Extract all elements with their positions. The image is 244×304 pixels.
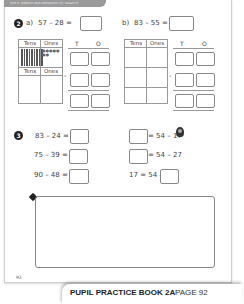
q2a-o-row1[interactable] bbox=[91, 52, 110, 66]
q2a-place-value-chart: Tens Ones Tens Ones ●●●●●●● bbox=[18, 39, 63, 104]
q2b-t-row2[interactable] bbox=[175, 73, 194, 87]
page-number: 92 bbox=[16, 275, 22, 280]
q3-left-1-answer[interactable] bbox=[70, 129, 89, 144]
ones-dots: ●●●●●●● bbox=[42, 49, 59, 57]
book-title: PUPIL PRACTICE BOOK 2A bbox=[70, 288, 175, 297]
header-strip: Unit 4: Addition and subtraction (2), Le… bbox=[4, 0, 106, 7]
working-area[interactable] bbox=[35, 196, 215, 268]
q2b-o-row2[interactable] bbox=[196, 73, 215, 87]
q3-right-3: 17 = 54 – bbox=[129, 171, 163, 179]
o-column-header: O bbox=[96, 40, 101, 47]
tens-header: Tens bbox=[126, 40, 146, 46]
q3-left-1: 83 – 24 = bbox=[35, 132, 69, 140]
q3-right-2-answer[interactable] bbox=[129, 149, 148, 164]
q3-left-3: 90 – 48 = bbox=[34, 171, 68, 179]
tens-header-2: Tens bbox=[20, 68, 40, 74]
q2a-t-row2[interactable] bbox=[70, 73, 89, 87]
ones-header-2: Ones bbox=[41, 68, 61, 74]
q2a-label: a) bbox=[26, 19, 33, 27]
q2b-label: b) bbox=[122, 19, 129, 27]
q3-left-2-answer[interactable] bbox=[69, 149, 88, 164]
q2a-t-answer[interactable] bbox=[70, 94, 89, 108]
ones-header: Ones bbox=[41, 40, 61, 46]
q2a-o-answer[interactable] bbox=[91, 94, 110, 108]
footer-tab: PUPIL PRACTICE BOOK 2A PAGE 92 bbox=[62, 284, 242, 304]
ones-header: Ones bbox=[147, 40, 167, 46]
minus-sign: - bbox=[64, 72, 67, 80]
q2a-o-row2[interactable] bbox=[91, 73, 110, 87]
lightbulb-hint-icon bbox=[176, 127, 184, 137]
q2b-place-value-chart: Tens Ones bbox=[124, 39, 168, 104]
t-column-header: T bbox=[75, 40, 79, 47]
book-page: PAGE 92 bbox=[175, 288, 208, 297]
header-text: Unit 4: Addition and subtraction (2), Le… bbox=[10, 1, 78, 5]
question-3-number: 3 bbox=[14, 131, 23, 140]
q3-right-2: = 54 – 27 bbox=[148, 151, 182, 159]
q2b-o-row1[interactable] bbox=[196, 52, 215, 66]
t-column-header: T bbox=[180, 40, 184, 47]
q3-right-3-answer[interactable] bbox=[160, 169, 179, 184]
tens-rods bbox=[21, 49, 43, 66]
q2b-answer-box[interactable] bbox=[169, 16, 194, 31]
q2b-o-answer[interactable] bbox=[196, 94, 215, 108]
q2a-expression: 57 – 28 = bbox=[38, 19, 72, 27]
q3-left-3-answer[interactable] bbox=[69, 169, 89, 184]
q2a-answer-box[interactable] bbox=[80, 16, 102, 31]
minus-sign: - bbox=[169, 72, 172, 80]
q3-right-1-answer[interactable] bbox=[129, 129, 148, 144]
q2b-expression: 83 – 55 = bbox=[134, 19, 168, 27]
o-column-header: O bbox=[202, 40, 207, 47]
q3-left-2: 75 – 39 = bbox=[34, 151, 68, 159]
q2b-t-row1[interactable] bbox=[175, 52, 194, 66]
q2b-t-answer[interactable] bbox=[175, 94, 194, 108]
question-2-number: 2 bbox=[14, 19, 23, 28]
q2a-t-row1[interactable] bbox=[70, 52, 89, 66]
tens-header: Tens bbox=[20, 40, 40, 46]
